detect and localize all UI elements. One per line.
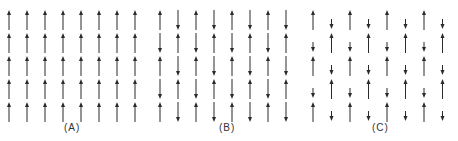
spin-arrow-down [404, 111, 408, 121]
spin-arrow-up [248, 33, 252, 53]
spin-arrow-up [7, 33, 11, 53]
spin-arrow-up [441, 79, 445, 99]
spin-arrow-down [230, 33, 234, 53]
spin-arrow-up [43, 102, 47, 122]
spin-arrow-down [266, 33, 270, 53]
spin-arrow-up [194, 102, 198, 122]
spin-arrow-down [441, 111, 445, 121]
spin-arrow-up [404, 79, 408, 99]
spin-arrow-up [61, 10, 65, 30]
spin-arrow-up [404, 33, 408, 53]
spin-arrow-down [176, 10, 180, 30]
spin-arrow-up [422, 10, 426, 30]
spin-arrow-up [97, 10, 101, 30]
spin-arrow-up [115, 56, 119, 76]
spin-arrow-up [230, 56, 234, 76]
spin-arrangement-figure [0, 0, 458, 141]
spin-arrow-up [79, 10, 83, 30]
spin-arrow-up [133, 102, 137, 122]
spin-arrow-up [7, 79, 11, 99]
spin-arrow-up [158, 102, 162, 122]
spin-arrow-down [385, 88, 389, 98]
spin-arrow-up [79, 56, 83, 76]
spin-arrow-up [348, 10, 352, 30]
spin-arrow-up [266, 102, 270, 122]
spin-arrow-up [266, 10, 270, 30]
panel-c-label: (C) [372, 122, 389, 133]
spin-arrow-down [194, 79, 198, 99]
spin-arrow-up [194, 10, 198, 30]
spin-arrow-down [284, 56, 288, 76]
spin-arrow-up [25, 79, 29, 99]
spin-arrow-down [441, 19, 445, 29]
spin-arrow-down [266, 79, 270, 99]
spin-arrow-down [176, 102, 180, 122]
spin-arrow-up [330, 79, 334, 99]
panel-a-label: (A) [64, 122, 80, 133]
panel-a-ferromagnetic [7, 10, 137, 122]
panel-b-antiferromagnetic [158, 10, 288, 122]
spin-arrow-down [284, 102, 288, 122]
spin-arrow-up [61, 79, 65, 99]
spin-arrow-down [212, 56, 216, 76]
spin-arrow-down [330, 19, 334, 29]
spin-arrow-up [25, 102, 29, 122]
spin-arrow-down [348, 42, 352, 52]
spin-arrow-up [330, 33, 334, 53]
spin-arrow-up [422, 56, 426, 76]
spin-arrow-up [97, 102, 101, 122]
spin-arrow-up [230, 10, 234, 30]
spin-arrow-up [115, 102, 119, 122]
spin-arrow-up [212, 33, 216, 53]
spin-arrow-up [230, 102, 234, 122]
spin-arrow-up [43, 33, 47, 53]
spin-arrow-up [115, 79, 119, 99]
spin-arrow-up [7, 10, 11, 30]
spin-arrow-down [441, 65, 445, 75]
spin-arrow-up [158, 56, 162, 76]
spin-arrow-down [348, 88, 352, 98]
spin-arrow-up [385, 102, 389, 122]
spin-arrow-up [79, 33, 83, 53]
spin-arrow-up [441, 33, 445, 53]
panel-b-label: (B) [219, 122, 235, 133]
spin-arrow-down [330, 65, 334, 75]
spin-arrow-down [404, 19, 408, 29]
spin-arrow-up [61, 33, 65, 53]
spin-arrow-up [266, 56, 270, 76]
spin-arrow-up [79, 79, 83, 99]
spin-arrow-up [115, 10, 119, 30]
spin-arrow-down [230, 79, 234, 99]
spin-arrow-up [97, 56, 101, 76]
spin-arrow-up [25, 33, 29, 53]
spin-arrow-down [367, 111, 371, 121]
spin-arrow-down [385, 42, 389, 52]
spin-arrow-up [422, 102, 426, 122]
spin-arrow-up [311, 10, 315, 30]
spin-arrow-up [97, 79, 101, 99]
spin-arrow-up [61, 102, 65, 122]
spin-arrow-up [7, 102, 11, 122]
spin-arrow-down [248, 10, 252, 30]
spin-arrow-up [133, 33, 137, 53]
spin-arrow-up [43, 56, 47, 76]
spin-arrow-down [158, 33, 162, 53]
spin-arrow-up [385, 10, 389, 30]
spin-arrow-up [284, 79, 288, 99]
spin-arrow-down [248, 102, 252, 122]
spin-arrow-up [348, 102, 352, 122]
spin-arrow-up [25, 10, 29, 30]
spin-arrow-up [176, 33, 180, 53]
spin-arrow-up [79, 102, 83, 122]
spin-arrow-up [133, 79, 137, 99]
spin-arrow-up [133, 10, 137, 30]
spin-arrow-up [115, 33, 119, 53]
spin-arrow-down [212, 10, 216, 30]
spin-arrow-up [284, 33, 288, 53]
spin-arrow-up [385, 56, 389, 76]
spin-arrow-up [133, 56, 137, 76]
spin-arrow-up [7, 56, 11, 76]
spin-arrow-up [158, 10, 162, 30]
spin-arrow-up [311, 56, 315, 76]
spin-arrow-down [194, 33, 198, 53]
